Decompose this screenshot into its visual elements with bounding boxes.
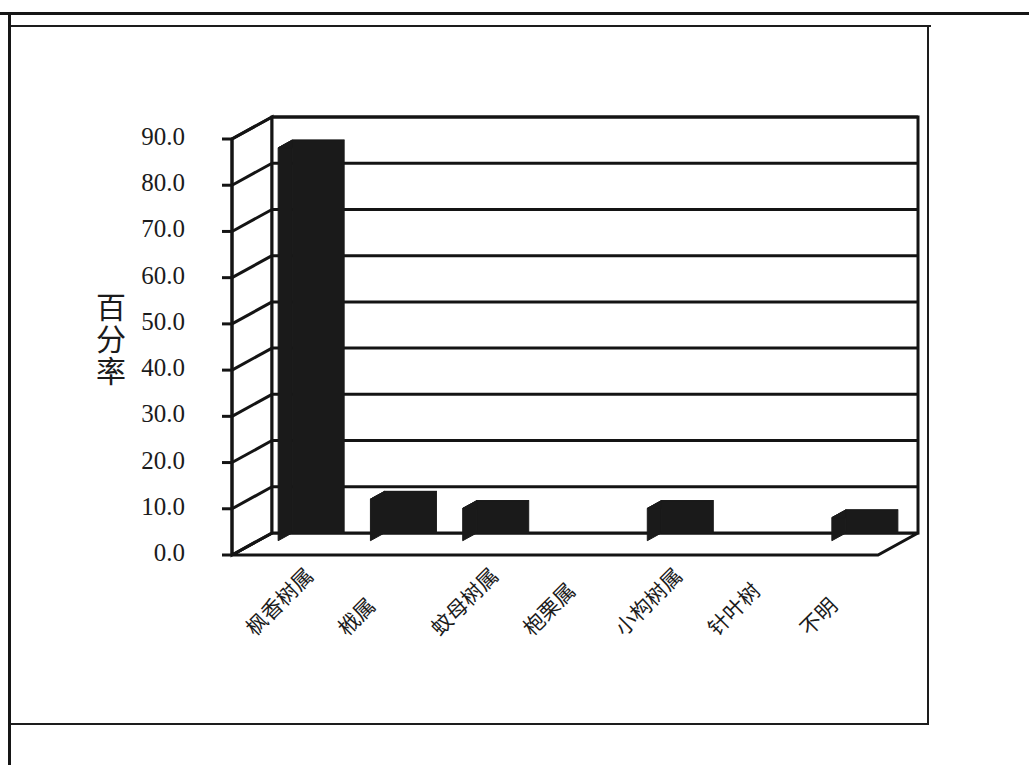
bar-side-face	[278, 140, 292, 541]
chart-svg	[0, 0, 1029, 765]
bar-front-face	[661, 501, 713, 533]
y-tick-label: 10.0	[100, 493, 185, 521]
bar	[278, 140, 344, 541]
y-tick-label: 20.0	[100, 447, 185, 475]
bar-chart	[0, 0, 1029, 765]
y-tick-label: 80.0	[100, 169, 185, 197]
scanned-page: 0.010.020.030.040.050.060.070.080.090.0 …	[0, 0, 1029, 765]
plot-back-wall	[272, 117, 918, 533]
plot-floor	[232, 533, 918, 555]
y-axis-title: 百分率	[92, 292, 126, 388]
y-tick-label: 60.0	[100, 262, 185, 290]
bar-front-face	[292, 140, 344, 533]
y-tick-label: 90.0	[100, 123, 185, 151]
bar	[370, 491, 436, 540]
y-tick-label: 0.0	[100, 539, 185, 567]
y-tick-label: 30.0	[100, 400, 185, 428]
y-tick-label: 70.0	[100, 215, 185, 243]
bar-front-face	[384, 491, 436, 533]
bar-front-face	[477, 501, 529, 533]
bar-front-face	[846, 510, 898, 533]
